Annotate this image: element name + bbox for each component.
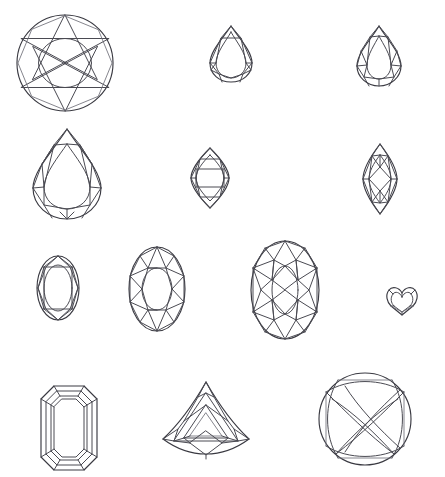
- gem-cut-chart-canvas: [0, 0, 445, 477]
- gem-oval-small: [36, 255, 80, 321]
- gem-oval-medium: [128, 246, 186, 332]
- gem-pear-large: [32, 128, 102, 220]
- gem-marquise-wide: [190, 147, 230, 209]
- gem-marquise-narrow: [362, 143, 398, 215]
- gem-round-brilliant: [16, 13, 114, 113]
- gem-cushion-round: [318, 372, 412, 466]
- gem-emerald-cut: [40, 385, 98, 471]
- gem-heart: [385, 286, 419, 316]
- gem-oval-large: [250, 240, 320, 340]
- gem-trillion: [160, 381, 252, 461]
- gem-pear-medium: [356, 25, 402, 87]
- gem-pear-small: [209, 25, 253, 83]
